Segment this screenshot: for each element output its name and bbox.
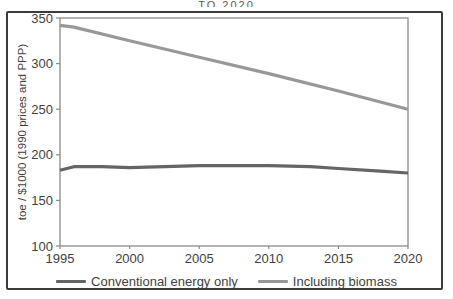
x-tick-label-1995: 1995 — [46, 251, 75, 266]
figure-page: TO 2020 10015020025030035019952000200520… — [0, 0, 453, 299]
plot-border — [60, 18, 408, 246]
legend-swatch-conventional-line — [56, 280, 86, 283]
legend-label-conventional: Conventional energy only — [91, 274, 238, 289]
y-axis-title: toe / $1000 (1990 prices and PPP) — [16, 44, 28, 220]
x-tick-label-2020: 2020 — [394, 251, 423, 266]
legend-item-biomass: Including biomass — [258, 274, 397, 289]
x-tick-label-2015: 2015 — [324, 251, 353, 266]
x-tick-label-2005: 2005 — [185, 251, 214, 266]
y-tick-label-300: 300 — [31, 56, 53, 71]
x-tick-label-2010: 2010 — [254, 251, 283, 266]
legend-swatch-biomass-line — [258, 280, 288, 283]
y-tick-label-150: 150 — [31, 193, 53, 208]
x-tick-label-2000: 2000 — [115, 251, 144, 266]
legend-label-biomass: Including biomass — [293, 274, 397, 289]
series-line-conventional-energy-only — [60, 166, 408, 173]
series-line-including-biomass — [60, 25, 408, 109]
line-chart: 1001502002503003501995200020052010201520… — [0, 0, 453, 299]
y-tick-label-350: 350 — [31, 11, 53, 26]
y-tick-label-250: 250 — [31, 102, 53, 117]
chart-legend: Conventional energy only Including bioma… — [0, 274, 453, 289]
y-tick-label-200: 200 — [31, 147, 53, 162]
legend-item-conventional: Conventional energy only — [56, 274, 238, 289]
